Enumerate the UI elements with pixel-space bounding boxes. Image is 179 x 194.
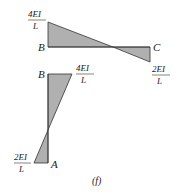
moment-diagram: 4EI L B C 2EI L B 4EI L 2EI L A (f) xyxy=(0,0,179,194)
column-top-moment-denominator: L xyxy=(80,75,86,85)
column-point-a-label: A xyxy=(50,158,58,170)
column-ab-diagram xyxy=(34,74,72,163)
column-bottom-moment-region xyxy=(34,130,48,163)
column-top-moment-region xyxy=(48,74,72,130)
column-bottom-moment-numerator: 2EI xyxy=(14,152,28,162)
beam-positive-moment-region xyxy=(48,22,113,47)
beam-left-moment-numerator: 4EI xyxy=(28,9,42,19)
column-top-moment-numerator: 4EI xyxy=(76,63,90,73)
beam-bc-diagram xyxy=(48,22,150,62)
column-bottom-moment-denominator: L xyxy=(18,164,24,174)
beam-point-b-label: B xyxy=(38,41,45,53)
beam-right-moment-denominator: L xyxy=(156,76,162,86)
column-point-b-label: B xyxy=(38,68,45,80)
beam-right-moment-numerator: 2EI xyxy=(152,64,166,74)
beam-negative-moment-region xyxy=(113,47,150,62)
figure-caption: (f) xyxy=(92,175,102,187)
beam-left-moment-denominator: L xyxy=(32,21,38,31)
beam-point-c-label: C xyxy=(153,41,161,53)
